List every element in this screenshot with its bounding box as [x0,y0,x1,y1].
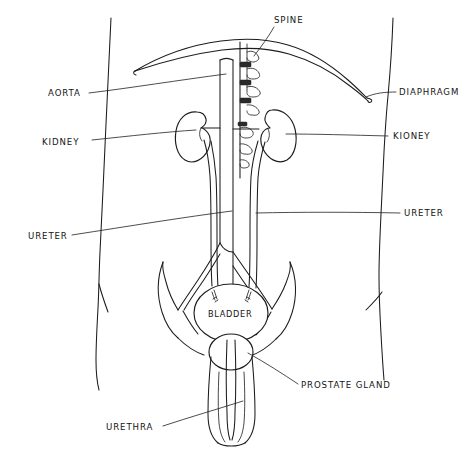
label-diaphragm: DIAPHRAGM [399,87,459,97]
pelvic-brim-left [163,262,178,310]
glans-tip [218,443,245,446]
label-bladder: BLADDER [208,309,252,319]
label-aorta: AORTA [48,88,81,98]
kidney-left-organ [175,112,210,162]
pubic-arch-left [178,338,204,355]
pelvis-left-wing [158,262,178,338]
intervertebral-disc-1 [240,62,251,67]
intervertebral-disc-2 [240,80,251,85]
label-ureter-left: URETER [28,231,68,241]
torso-left-hip-crease [99,284,108,312]
leader-line-prostate-gland [248,353,298,384]
vertebra-7 [240,160,249,168]
leader-line-diaphragm [366,92,396,97]
pelvis-right-wing [276,262,296,339]
labels-group: SPINE AORTA DIAPHRAGM KIDNEY KIONEY URET… [28,15,459,432]
leader-line-aorta [89,74,226,93]
prostate-gland-organ [209,334,253,370]
leader-line-kidney-right [286,134,388,136]
leader-line-ureter-right [256,212,400,213]
spine-group [238,42,260,178]
kidney-right-organ [261,110,296,162]
corpus-cavernosum-right [238,372,245,442]
vertebra-6 [240,144,252,154]
diaphragm-lower-curve [135,48,368,101]
label-spine: SPINE [274,15,304,25]
label-kidney-right: KIONEY [393,131,430,141]
penis-left-outline [208,357,218,443]
pelvic-brim-right [272,262,290,309]
vertebra-2 [247,68,260,79]
aorta-top-cap [220,59,233,61]
ureter-right-lateral-wall [256,142,265,288]
diaphragm-left-tip [134,71,136,75]
label-kidney-left: KIDNEY [42,137,79,147]
label-urethra: URETHRA [106,422,153,432]
urinary-system-illustration: SPINE AORTA DIAPHRAGM KIDNEY KIONEY URET… [0,0,476,464]
aorta-bifurcation-notch [220,243,233,252]
leader-line-urethra [163,401,243,426]
vertebra-1 [247,51,259,62]
diaphragm-group [134,39,372,102]
vertebra-4 [247,105,259,115]
leader-line-ureter-left [72,211,232,235]
penis-right-outline [245,357,255,443]
label-ureter-right: URETER [404,208,444,218]
vertebra-3 [247,86,260,97]
prostate-group [209,334,253,370]
kidneys-group [175,110,296,162]
torso-right-outline [379,18,393,380]
anatomy-diagram-canvas: SPINE AORTA DIAPHRAGM KIDNEY KIONEY URET… [0,0,476,464]
intervertebral-disc-3 [240,98,251,103]
intervertebral-disc-4 [238,122,247,126]
label-prostate-gland: PROSTATE GLAND [301,380,391,390]
pubic-arch-right [250,339,276,356]
torso-left-outline [96,18,111,390]
